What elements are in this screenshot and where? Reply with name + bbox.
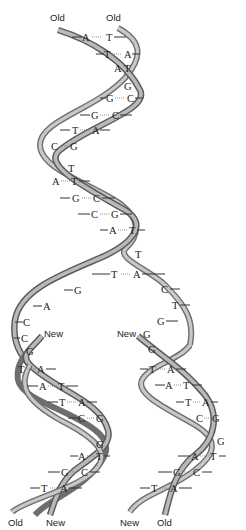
base: C [127,93,134,104]
base: A [170,483,178,494]
base: T [185,397,192,408]
base: A [165,380,173,391]
label-old-top-left: Old [50,12,65,23]
base: T [106,32,113,43]
base: A [133,269,141,280]
base: C [112,110,119,121]
base: T [71,176,78,187]
base: T [129,225,136,236]
base: C [193,467,200,478]
base: T [210,451,217,462]
base: T [58,381,65,392]
base: A [60,483,68,494]
parent-base-pairs: A T T A A T G G C G C T A C G T A T G C [51,32,165,280]
base: A [37,364,45,375]
base: G [91,110,99,121]
base: T [59,397,66,408]
base: A [52,176,60,187]
base: G [74,285,82,296]
base: A [43,301,51,312]
base: A [191,451,199,462]
base: T [41,483,48,494]
label-new-right-daughter: New [117,328,136,339]
base: G [143,329,151,340]
base: A [78,397,86,408]
base: A [202,397,210,408]
label-new-left-daughter: New [44,328,63,339]
base: G [173,467,181,478]
label-old-top-right: Old [106,12,121,23]
base: G [96,413,104,424]
base: A [39,381,47,392]
base: T [18,364,25,375]
base: T [124,63,131,74]
base: G [124,81,132,92]
label-old-bottom-right: Old [157,517,172,528]
base: C [23,317,30,328]
base: C [91,209,98,220]
base: G [212,413,220,424]
parent-strand-right [40,28,191,345]
base: C [78,413,85,424]
base: A [167,364,175,375]
label-new-bottom-right: New [120,517,139,528]
base: G [96,439,104,450]
label-new-bottom-left: New [46,517,65,528]
base: T [104,49,111,60]
base: C [21,333,28,344]
base: A [78,451,86,462]
base: G [72,193,80,204]
base: G [26,346,34,357]
base: G [106,93,114,104]
base: T [135,249,142,260]
base: A [82,32,90,43]
base: T [111,269,118,280]
base: T [72,125,79,136]
base: A [92,125,100,136]
base: G [111,209,119,220]
base: C [81,467,88,478]
parent-helix [14,28,191,365]
base: A [124,49,132,60]
base: T [68,163,75,174]
dna-replication-diagram: Old Old A T T A A T G G C G C T A C G T … [0,0,246,530]
label-old-bottom-left: Old [8,517,23,528]
base: G [70,141,78,152]
base: A [109,225,117,236]
base: T [151,483,158,494]
base: G [157,316,165,327]
base: G [61,467,69,478]
base: T [149,364,156,375]
base: C [196,413,203,424]
base: G [217,436,225,447]
base: C [161,284,168,295]
base: T [183,380,190,391]
base: G [148,344,156,355]
base: T [172,300,179,311]
base: A [114,63,122,74]
base: C [51,141,58,152]
base: C [93,193,100,204]
base: T [96,451,103,462]
